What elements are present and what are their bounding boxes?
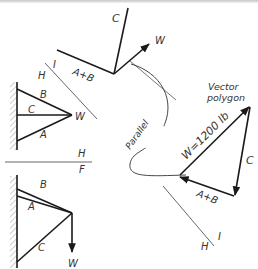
bracket-1: B C A W <box>10 82 86 150</box>
label-w: W <box>75 111 86 122</box>
bracket-2: B A C W <box>10 175 79 269</box>
member-c <box>17 213 72 262</box>
parallel-annotation: Parallel <box>123 64 186 176</box>
vector-polygon: Vector polygon W=1200 lb C A+B <box>179 81 254 206</box>
label-w: W <box>68 258 79 269</box>
label-w: W <box>155 35 166 46</box>
member-a <box>17 196 72 213</box>
polygon-title-1: Vector <box>208 81 240 92</box>
label-b: B <box>40 89 47 100</box>
parallel-curve <box>130 64 186 176</box>
top-vector-group: C W A+B <box>57 8 176 100</box>
label-a-plus-b: A+B <box>70 65 96 84</box>
label-h: H <box>78 148 86 159</box>
c-vector <box>235 107 250 195</box>
wall-hatch <box>10 82 17 150</box>
label-i: I <box>218 231 221 242</box>
label-c: C <box>38 242 45 253</box>
force-diagram: C W A+B I H B C A W H F B A C W <box>0 0 258 269</box>
label-a: A <box>27 201 35 212</box>
polygon-title-2: polygon <box>206 92 245 103</box>
label-h: H <box>201 241 209 252</box>
divider-h-f: H F <box>5 148 92 175</box>
label-i: I <box>53 59 56 70</box>
wall-hatch <box>10 176 17 268</box>
c-label: C <box>246 154 254 167</box>
label-c: C <box>112 12 120 25</box>
w-value-label: W=1200 lb <box>179 109 232 162</box>
label-f: F <box>79 164 85 175</box>
label-h: H <box>38 70 46 81</box>
label-a: A <box>39 129 47 140</box>
parallel-line <box>130 61 176 100</box>
label-c: C <box>28 104 35 115</box>
member-b <box>17 189 72 213</box>
label-b: B <box>40 179 47 190</box>
